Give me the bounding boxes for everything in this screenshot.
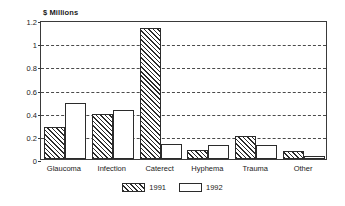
bar-1992-glaucoma	[65, 103, 86, 159]
y-tick-label: 0.4	[27, 110, 37, 119]
bar-1991-caterect	[140, 28, 161, 159]
plot-area: 00.20.40.60.811.2	[40, 21, 327, 160]
legend-swatch-1991	[122, 183, 145, 192]
bars-layer	[41, 22, 326, 159]
legend-label-1992: 1992	[206, 183, 223, 192]
bar-1991-trauma	[235, 136, 256, 159]
bar-1991-hyphema	[187, 150, 208, 159]
legend-label-1991: 1991	[149, 183, 166, 192]
x-tick-label: Other	[294, 164, 313, 173]
y-tick-mark	[38, 161, 41, 162]
legend-item-1991: 1991	[122, 183, 166, 192]
chart-legend: 19911992	[0, 183, 345, 192]
x-tick-label: Trauma	[242, 164, 268, 173]
bar-1992-other	[304, 156, 325, 159]
y-tick-label: 0.6	[27, 87, 37, 96]
y-tick-label: 0.8	[27, 64, 37, 73]
x-tick-label: Glaucoma	[47, 164, 81, 173]
legend-swatch-1992	[179, 183, 202, 192]
x-tick-label: Caterect	[145, 164, 173, 173]
y-tick-label: 1.2	[27, 18, 37, 27]
bar-1992-caterect	[161, 144, 182, 159]
y-tick-label: 0.2	[27, 133, 37, 142]
x-tick-label: Hyphema	[191, 164, 223, 173]
bar-1991-other	[283, 151, 304, 159]
x-tick-label: Infection	[98, 164, 126, 173]
bar-1992-trauma	[256, 145, 277, 159]
bar-1991-glaucoma	[44, 127, 65, 159]
bar-1992-infection	[113, 110, 134, 159]
y-tick-label: 1	[33, 41, 37, 50]
bar-1991-infection	[92, 114, 113, 159]
legend-item-1992: 1992	[179, 183, 223, 192]
bar-chart: $ Millions 00.20.40.60.811.2 GlaucomaInf…	[0, 0, 345, 206]
bar-1992-hyphema	[208, 145, 229, 159]
y-tick-label: 0	[33, 157, 37, 166]
y-axis-unit-title: $ Millions	[43, 8, 78, 17]
